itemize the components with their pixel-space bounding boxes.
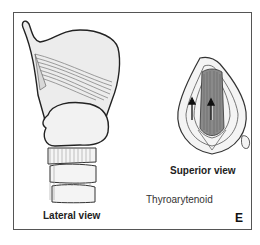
larynx-illustration [0, 0, 260, 245]
lateral-view-label: Lateral view [43, 210, 100, 221]
cricoid-cartilage [43, 102, 108, 146]
panel-letter: E [235, 211, 243, 225]
superior-view-drawing [178, 57, 250, 154]
muscle-name-label: Thyroarytenoid [146, 194, 213, 205]
superior-view-label: Superior view [170, 165, 236, 176]
lateral-view-drawing [23, 21, 120, 203]
trachea [48, 148, 96, 203]
